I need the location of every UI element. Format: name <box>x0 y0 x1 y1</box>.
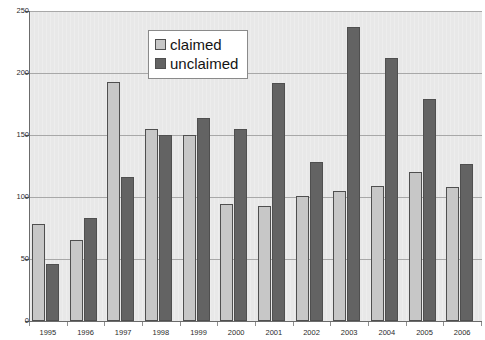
x-tick-label-2005: 2005 <box>407 328 443 337</box>
y-axis: 050100150200250 <box>0 0 29 332</box>
x-tick-label-1998: 1998 <box>143 328 179 337</box>
legend-item-unclaimed[interactable]: unclaimed <box>155 54 238 73</box>
bar-claimed-2005[interactable] <box>409 172 422 321</box>
bar-unclaimed-1995[interactable] <box>46 264 59 321</box>
bar-claimed-1998[interactable] <box>145 129 158 321</box>
chart-title <box>150 0 350 2</box>
bar-unclaimed-2006[interactable] <box>460 164 473 321</box>
x-tick-mark-2002 <box>293 322 294 326</box>
legend-swatch-unclaimed-icon <box>155 58 166 69</box>
bar-group <box>407 11 445 321</box>
bar-unclaimed-2005[interactable] <box>423 99 436 321</box>
legend-label-claimed: claimed <box>170 37 222 53</box>
x-tick-mark-1998 <box>142 322 143 326</box>
bar-claimed-2000[interactable] <box>220 204 233 321</box>
bar-unclaimed-2001[interactable] <box>272 83 285 321</box>
x-tick-label-1999: 1999 <box>181 328 217 337</box>
bar-unclaimed-2002[interactable] <box>310 162 323 321</box>
x-tick-mark-end <box>481 322 482 326</box>
x-tick-label-2006: 2006 <box>444 328 480 337</box>
bar-group <box>105 11 143 321</box>
x-tick-label-1995: 1995 <box>30 328 66 337</box>
x-tick-label-1997: 1997 <box>105 328 141 337</box>
chart-legend: claimed unclaimed <box>148 30 248 79</box>
bar-group <box>294 11 332 321</box>
bar-group <box>30 11 68 321</box>
legend-item-claimed[interactable]: claimed <box>155 35 238 54</box>
x-tick-mark-2006 <box>443 322 444 326</box>
bar-unclaimed-1998[interactable] <box>159 135 172 321</box>
bar-claimed-1997[interactable] <box>107 82 120 321</box>
bar-claimed-2003[interactable] <box>333 191 346 321</box>
x-tick-mark-2005 <box>406 322 407 326</box>
bar-unclaimed-1997[interactable] <box>121 177 134 321</box>
x-tick-mark-1995 <box>29 322 30 326</box>
legend-label-unclaimed: unclaimed <box>170 56 238 72</box>
bar-claimed-2001[interactable] <box>258 206 271 321</box>
bar-claimed-2006[interactable] <box>446 187 459 321</box>
x-tick-label-2003: 2003 <box>331 328 367 337</box>
bar-group <box>331 11 369 321</box>
bar-claimed-2004[interactable] <box>371 186 384 321</box>
plot-area <box>29 11 482 322</box>
bar-group <box>369 11 407 321</box>
bar-group <box>444 11 482 321</box>
x-tick-label-2004: 2004 <box>369 328 405 337</box>
bar-claimed-1996[interactable] <box>70 240 83 321</box>
bars-layer <box>30 11 482 321</box>
x-tick-label-2002: 2002 <box>294 328 330 337</box>
x-tick-mark-2004 <box>368 322 369 326</box>
bar-group <box>256 11 294 321</box>
x-tick-mark-2001 <box>255 322 256 326</box>
bar-unclaimed-2003[interactable] <box>347 27 360 321</box>
bar-unclaimed-1999[interactable] <box>197 118 210 321</box>
bar-unclaimed-2000[interactable] <box>234 129 247 321</box>
x-tick-mark-2000 <box>217 322 218 326</box>
x-tick-mark-1996 <box>67 322 68 326</box>
bar-claimed-2002[interactable] <box>296 196 309 321</box>
x-axis: 1995199619971998199920002001200220032004… <box>29 322 482 340</box>
x-tick-label-2000: 2000 <box>218 328 254 337</box>
bar-unclaimed-2004[interactable] <box>385 58 398 321</box>
x-tick-label-1996: 1996 <box>68 328 104 337</box>
x-tick-mark-1997 <box>104 322 105 326</box>
bar-claimed-1999[interactable] <box>183 135 196 321</box>
bar-group <box>68 11 106 321</box>
x-tick-mark-2003 <box>330 322 331 326</box>
bar-unclaimed-1996[interactable] <box>84 218 97 321</box>
bar-claimed-1995[interactable] <box>32 224 45 321</box>
bar-chart: 050100150200250 199519961997199819992000… <box>0 0 485 340</box>
x-tick-label-2001: 2001 <box>256 328 292 337</box>
x-tick-mark-1999 <box>180 322 181 326</box>
legend-swatch-claimed-icon <box>155 39 166 50</box>
